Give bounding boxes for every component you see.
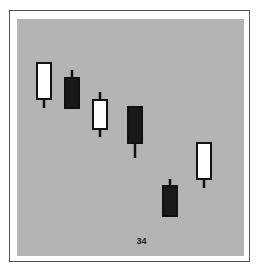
candle-2-bearish (65, 70, 79, 109)
figure-number-label: 34 (136, 236, 146, 246)
candle-6-bullish (197, 142, 211, 188)
candle-1-bullish (37, 62, 51, 108)
chart-annotation: 34 (0, 236, 259, 246)
candle-5-bearish (163, 179, 177, 217)
candlestick-chart (0, 0, 259, 271)
candle-body (65, 78, 79, 108)
candle-body (37, 63, 51, 99)
candle-body (128, 107, 142, 143)
candle-body (93, 100, 107, 129)
candle-4-bearish (128, 106, 142, 158)
candle-body (197, 143, 211, 179)
candle-3-bullish (93, 92, 107, 137)
candle-body (163, 186, 177, 216)
